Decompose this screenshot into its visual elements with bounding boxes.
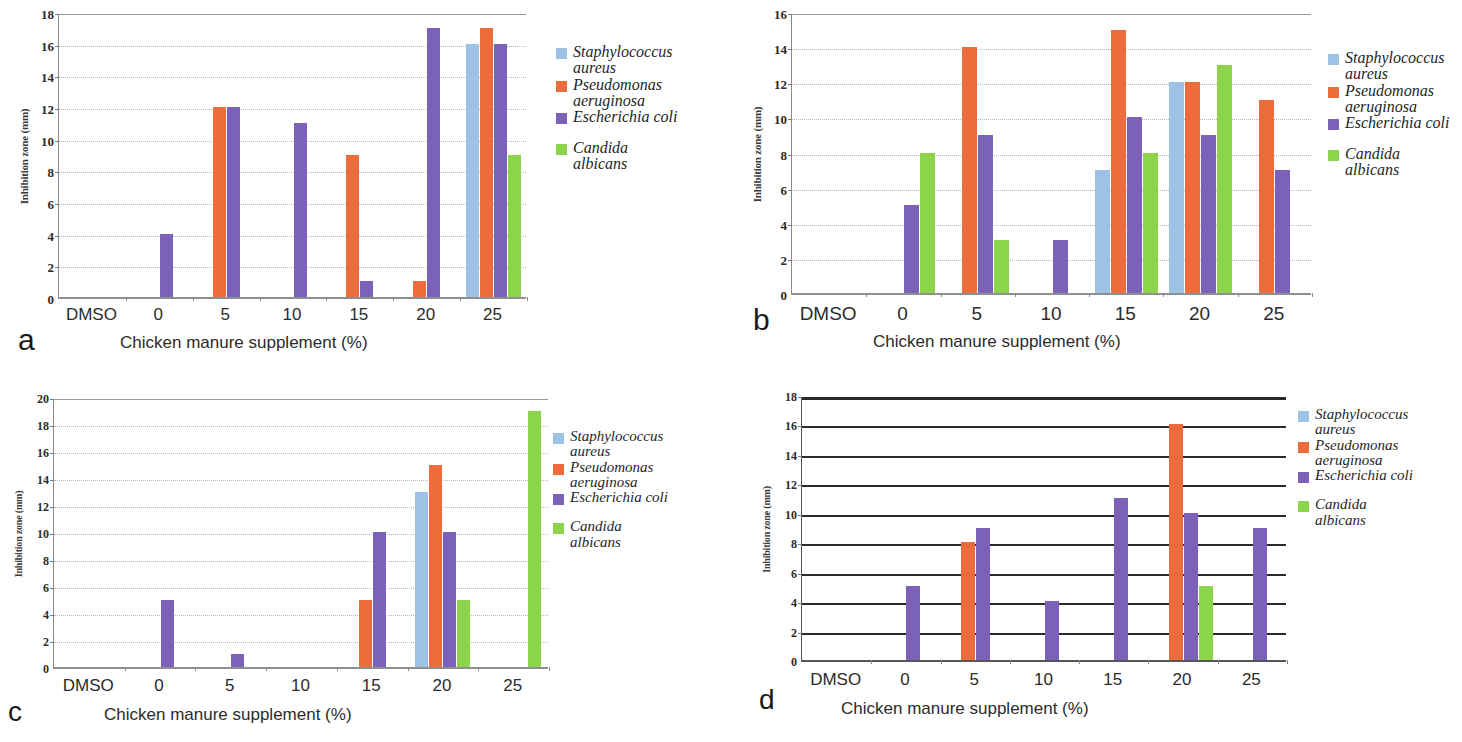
y-tickmark <box>798 485 802 486</box>
x-tickmark <box>1010 660 1011 664</box>
legend-swatch-2 <box>553 494 564 505</box>
y-tickmark <box>788 119 792 120</box>
bar-b-15-0 <box>1095 170 1110 293</box>
x-tickmark <box>1079 660 1080 664</box>
bar-a-15-1 <box>346 155 359 298</box>
bar-b-20-3 <box>1217 65 1232 293</box>
bar-c-20-0 <box>415 492 428 668</box>
bar-b-10-2 <box>1053 240 1068 293</box>
x-tickmark <box>941 293 942 297</box>
panel-letter-b: b <box>753 305 770 335</box>
x-tick-label: 15 <box>362 676 381 696</box>
legend-item: Candida albicans <box>1298 497 1413 528</box>
bar-d-5-1 <box>961 542 975 660</box>
x-tickmark <box>260 297 261 301</box>
y-tick-label: 8 <box>43 555 49 567</box>
bar-a-20-1 <box>413 281 426 297</box>
legend-label: Candida albicans <box>1315 497 1367 528</box>
x-tickmark <box>193 297 194 301</box>
x-tickmark <box>1312 293 1313 297</box>
legend-label: Candida albicans <box>573 140 628 173</box>
gridline <box>802 574 1286 576</box>
bar-a-25-2 <box>494 44 507 297</box>
gridline <box>792 225 1311 226</box>
legend-swatch-0 <box>556 48 567 59</box>
legend-swatch-1 <box>1298 442 1309 453</box>
x-tick-label: DMSO <box>810 670 861 690</box>
y-tickmark <box>55 267 59 268</box>
legend-item: Candida albicans <box>1328 146 1449 179</box>
x-tickmark <box>1218 660 1219 664</box>
y-tick-label: 6 <box>48 198 55 211</box>
bar-c-15-1 <box>359 600 372 668</box>
figure-container: Inhibition zone (mm)024681012141618DMSO0… <box>0 0 1462 742</box>
bar-c-5-2 <box>231 654 244 668</box>
y-tickmark <box>788 49 792 50</box>
x-tick-label: 0 <box>900 670 909 690</box>
y-tick-label: 14 <box>785 450 797 462</box>
x-tick-label: 25 <box>483 305 502 325</box>
y-tickmark <box>798 633 802 634</box>
x-tick-label: 20 <box>1189 303 1210 325</box>
x-tickmark <box>1015 293 1016 297</box>
legend-swatch-0 <box>553 433 564 444</box>
x-tickmark <box>1089 293 1090 297</box>
y-tick-label: 16 <box>37 447 49 459</box>
x-tick-label: 10 <box>1034 670 1053 690</box>
gridline <box>54 453 548 454</box>
plot-area <box>58 14 526 299</box>
x-tick-label: 20 <box>1173 670 1192 690</box>
y-tickmark <box>50 534 54 535</box>
x-tick-label: 25 <box>1263 303 1284 325</box>
y-tickmark <box>50 399 54 400</box>
y-tickmark <box>788 225 792 226</box>
legend-label: Candida albicans <box>1345 146 1400 179</box>
legend-swatch-3 <box>1328 150 1339 161</box>
gridline <box>59 14 526 15</box>
y-tick-label: 0 <box>791 656 797 668</box>
legend-swatch-3 <box>556 144 567 155</box>
gridline <box>792 84 1311 85</box>
gridline <box>54 507 548 508</box>
gridline <box>792 49 1311 50</box>
chart-panel-d: Inhibition zone (mm)024681012141618DMSO0… <box>731 371 1462 742</box>
y-tick-label: 18 <box>41 8 54 21</box>
bar-b-25-2 <box>1275 170 1290 293</box>
legend-item: Candida albicans <box>556 140 677 173</box>
panel-letter-c: c <box>8 698 22 726</box>
legend-swatch-2 <box>1298 472 1309 483</box>
x-axis-title: Chicken manure supplement (%) <box>120 333 368 353</box>
gridline <box>54 642 548 643</box>
y-tickmark <box>788 190 792 191</box>
gridline <box>802 633 1286 635</box>
bar-a-25-1 <box>480 28 493 297</box>
bar-a-10-2 <box>294 123 307 297</box>
bar-c-25-3 <box>528 411 541 668</box>
y-tick-label: 8 <box>48 166 55 179</box>
y-tickmark <box>50 453 54 454</box>
x-tickmark <box>460 297 461 301</box>
gridline <box>792 14 1311 15</box>
bar-d-25-2 <box>1253 528 1267 661</box>
bar-b-5-3 <box>994 240 1009 293</box>
bar-a-5-2 <box>227 107 240 297</box>
gridline <box>54 426 548 427</box>
x-tickmark <box>549 667 550 671</box>
x-tick-label: 10 <box>1040 303 1061 325</box>
x-tick-label: 20 <box>416 305 435 325</box>
x-tick-label: 0 <box>154 305 163 325</box>
y-tickmark <box>788 84 792 85</box>
y-tickmark <box>55 204 59 205</box>
y-axis-ticks: 0246810121416 <box>761 14 787 295</box>
y-tick-label: 4 <box>791 597 797 609</box>
x-tick-label: 10 <box>283 305 302 325</box>
y-tick-label: 4 <box>48 229 55 242</box>
legend-label: Pseudomonas aeruginosa <box>570 460 653 491</box>
legend-label: Staphylococcus aureus <box>1315 407 1408 438</box>
x-tick-label: DMSO <box>66 305 117 325</box>
x-tickmark <box>337 667 338 671</box>
plot-area <box>801 397 1286 662</box>
bar-a-15-2 <box>360 281 373 297</box>
bar-b-15-2 <box>1127 117 1142 293</box>
bar-b-20-1 <box>1185 82 1200 293</box>
